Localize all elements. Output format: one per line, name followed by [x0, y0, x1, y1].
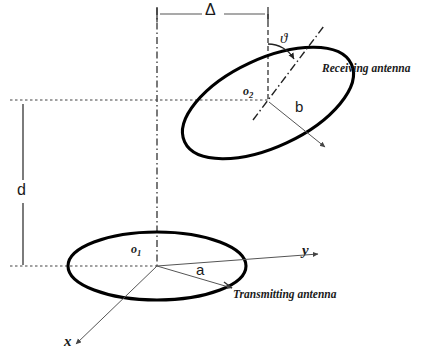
receiving-antenna-label: Receiving antenna: [322, 63, 411, 75]
semi-axis-b-label: b: [295, 99, 303, 114]
delta-label: Δ: [205, 2, 216, 18]
origin-o1-label: o1: [131, 243, 141, 258]
diagram-canvas: [0, 0, 434, 358]
origin-o2-label: o2: [243, 85, 253, 100]
y-axis-line: [157, 254, 318, 266]
a-radius-arrow: [157, 266, 232, 288]
origin-o1-subscript: 1: [137, 248, 141, 258]
x-axis-label: x: [64, 334, 72, 349]
y-axis-label: y: [302, 243, 309, 258]
semi-axis-a-label: a: [196, 262, 204, 277]
x-axis-line: [76, 266, 157, 344]
theta-angle-label: ϑ: [280, 31, 287, 46]
receiving-antenna-normal-axis: [253, 26, 324, 120]
separation-d-label: d: [17, 182, 26, 198]
antenna-geometry-diagram: Δ ϑ Receiving antenna o2 b d o1 y a Tran…: [0, 0, 434, 358]
origin-o2-subscript: 2: [249, 90, 253, 100]
transmitting-antenna-label: Transmitting antenna: [233, 289, 336, 301]
